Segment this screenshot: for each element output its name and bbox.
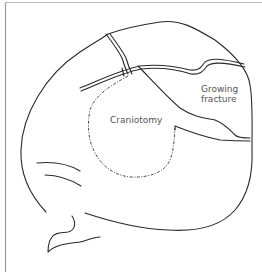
zygoma-line-upper (37, 163, 80, 171)
coronal-suture-2 (110, 34, 132, 74)
zygoma-line-lower (45, 175, 81, 186)
diagram-frame: Craniotomy Growing fracture (0, 0, 262, 272)
coronal-suture-1 (106, 34, 128, 74)
fracture-lower-branch (175, 126, 250, 141)
skull-outline (21, 21, 252, 230)
label-growing: Growing (201, 84, 238, 94)
label-craniotomy: Craniotomy (110, 115, 163, 125)
mandible-line (48, 216, 100, 252)
skull-diagram: Craniotomy Growing fracture (0, 0, 262, 272)
label-fracture: fracture (201, 94, 237, 104)
